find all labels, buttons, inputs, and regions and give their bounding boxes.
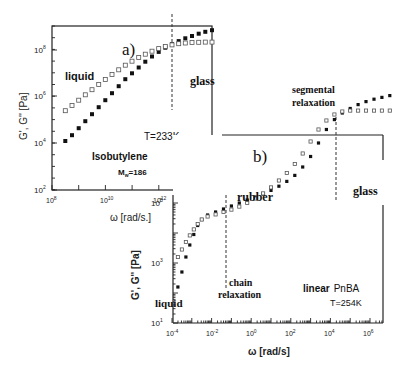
data-point (183, 36, 187, 40)
panel-a-molecular-weight: Mw=186 (118, 168, 147, 178)
data-point (63, 139, 67, 143)
panel-a-y-axis-label: G', G'' [Pa] (18, 92, 29, 140)
data-point (137, 56, 141, 60)
data-point (192, 228, 195, 231)
data-point (97, 83, 101, 87)
data-point (200, 218, 203, 221)
data-point (110, 91, 114, 95)
data-point (357, 103, 360, 106)
data-point (372, 109, 375, 112)
data-point (143, 52, 147, 56)
data-point (214, 213, 217, 216)
data-point (184, 240, 187, 243)
data-point (197, 40, 201, 44)
data-point (301, 152, 304, 155)
panel-b-rubber-label: rubber (237, 190, 274, 204)
panel-a-y-minor-ticks (52, 26, 57, 190)
panel-a-liquid-label: liquid (65, 70, 94, 82)
data-point (317, 141, 320, 144)
panel-b-temperature: T=254K (330, 298, 362, 308)
svg-text:102: 102 (34, 184, 46, 195)
data-point (70, 133, 74, 137)
panel-b-xtick-labels: 10-4 10-2 100 102 104 106 (166, 328, 374, 337)
data-point (309, 155, 312, 158)
panel-b-x-axis-label: ω [rad/s] (248, 346, 290, 357)
data-point (285, 180, 288, 183)
data-point (188, 234, 191, 237)
panel-b-liquid-label: liquid (155, 297, 183, 309)
data-point (190, 34, 194, 38)
data-point (372, 98, 375, 101)
svg-text:105: 105 (151, 197, 163, 208)
data-point (388, 109, 391, 112)
svg-text:10-2: 10-2 (206, 328, 218, 337)
data-point (77, 126, 81, 130)
svg-text:10-4: 10-4 (166, 328, 178, 337)
data-point (277, 179, 280, 182)
data-point (325, 128, 328, 131)
data-point (70, 104, 74, 108)
svg-text:106: 106 (34, 90, 46, 101)
svg-text:103: 103 (151, 257, 163, 268)
data-point (83, 93, 87, 97)
data-point (380, 96, 383, 99)
data-point (117, 84, 121, 88)
data-point (388, 94, 391, 97)
svg-text:1010: 1010 (100, 195, 114, 204)
panel-a-material: Isobutylene (92, 151, 148, 162)
data-point (197, 32, 201, 36)
data-point (357, 109, 360, 112)
data-point (170, 43, 174, 47)
svg-text:104: 104 (34, 137, 46, 148)
data-point (83, 119, 87, 123)
data-point (110, 73, 114, 77)
svg-text:100: 100 (246, 328, 257, 337)
figure: 108 106 104 102 108 1010 1012 1014 ω [ra… (0, 0, 402, 377)
data-point (77, 98, 81, 102)
data-point (293, 174, 296, 177)
data-point (349, 109, 352, 112)
data-point (150, 55, 154, 59)
data-point (176, 285, 179, 288)
data-point (206, 215, 209, 218)
data-point (293, 162, 296, 165)
data-point (230, 208, 233, 211)
svg-text:108: 108 (46, 195, 57, 204)
data-point (364, 109, 367, 112)
panel-a-ytick-labels: 108 106 104 102 (34, 44, 46, 195)
data-point (380, 109, 383, 112)
data-point (285, 171, 288, 174)
data-point (301, 165, 304, 168)
data-point (190, 41, 194, 45)
panel-b-segmental-label-2: relaxation (292, 97, 336, 108)
data-point (341, 110, 344, 113)
panel-b-chain-label-1: chain (229, 277, 253, 288)
panel-b-y-axis-label: G', G'' [Pa] (130, 250, 141, 300)
data-point (130, 59, 134, 63)
data-point (309, 140, 312, 143)
data-point (180, 270, 183, 273)
panel-b-plot: 105 103 101 10-4 10-2 100 102 104 106 ω … (130, 84, 391, 357)
data-point (269, 186, 272, 189)
data-point (150, 49, 154, 53)
data-point (163, 45, 167, 49)
data-point (143, 60, 147, 64)
data-point (210, 40, 214, 44)
svg-text:104: 104 (324, 328, 335, 337)
data-point (180, 248, 183, 251)
data-point (176, 255, 179, 258)
data-point (210, 28, 214, 32)
data-point (97, 105, 101, 109)
data-point (183, 41, 187, 45)
data-point (90, 112, 94, 116)
data-point (123, 77, 127, 81)
panel-b-glass-label: glass (353, 184, 378, 198)
data-point (333, 118, 336, 121)
data-point (317, 128, 320, 131)
data-point (277, 185, 280, 188)
data-point (137, 66, 141, 70)
data-point (177, 42, 181, 46)
panel-a-x-ticks (52, 185, 186, 190)
panel-a-glass-label: glass (190, 74, 215, 88)
data-point (196, 222, 199, 225)
